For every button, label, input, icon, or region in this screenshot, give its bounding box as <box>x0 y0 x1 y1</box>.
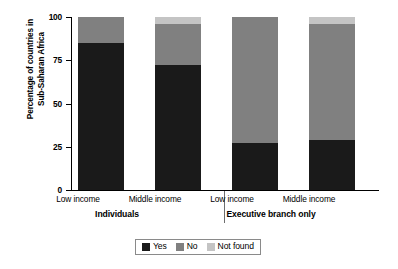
stacked-bar-chart: Percentage of countries inSub-Saharan Af… <box>0 0 398 269</box>
legend-item-no[interactable]: No <box>176 242 198 251</box>
group-label-executive-branch-only: Executive branch only <box>196 209 346 220</box>
y-tick-0 <box>66 190 71 191</box>
bar-executive-low-income[interactable] <box>232 17 278 190</box>
bar-segment-yes <box>78 43 124 190</box>
legend-swatch-not-found-icon <box>207 243 215 251</box>
x-label-executive-middle-income: Middle income <box>264 194 354 205</box>
legend-swatch-yes-icon <box>142 243 150 251</box>
legend: Yes No Not found <box>135 239 261 255</box>
y-tick-label-50: 50 <box>22 100 62 108</box>
y-tick-label-25: 25 <box>22 143 62 151</box>
legend-item-yes[interactable]: Yes <box>142 242 167 251</box>
legend-swatch-no-icon <box>176 243 184 251</box>
x-axis-line <box>71 190 379 191</box>
bar-segment-no <box>155 24 201 66</box>
legend-label-yes: Yes <box>153 242 167 251</box>
legend-item-not-found[interactable]: Not found <box>207 242 254 251</box>
bar-segment-no <box>78 17 124 43</box>
bar-segment-no <box>309 24 355 140</box>
y-tick-label-75: 75 <box>22 56 62 64</box>
y-tick-label-100: 100 <box>22 13 62 21</box>
bar-segment-not-found <box>155 17 201 24</box>
plot-area <box>71 17 379 190</box>
bar-segment-yes <box>309 140 355 190</box>
bar-individuals-middle-income[interactable] <box>155 17 201 190</box>
y-tick-label-0: 0 <box>22 186 62 194</box>
bar-executive-middle-income[interactable] <box>309 17 355 190</box>
legend-label-no: No <box>187 242 198 251</box>
y-axis-title-line-2: Sub-Saharan Africa <box>37 32 46 106</box>
bar-segment-no <box>232 17 278 143</box>
bar-segment-yes <box>155 65 201 190</box>
group-label-individuals: Individuals <box>42 209 192 220</box>
y-axis-title: Percentage of countries inSub-Saharan Af… <box>25 0 47 149</box>
bar-segment-not-found <box>309 17 355 24</box>
legend-label-not-found: Not found <box>218 242 254 251</box>
bar-individuals-low-income[interactable] <box>78 17 124 190</box>
bar-segment-yes <box>232 143 278 190</box>
